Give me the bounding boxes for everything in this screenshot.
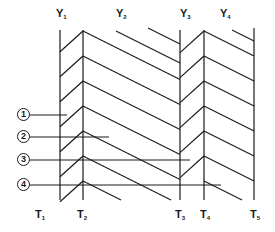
bottom-label-t5: T5 (250, 209, 260, 221)
rising-segment (60, 131, 83, 152)
rising-segment (60, 181, 83, 202)
falling-diagonal (83, 181, 121, 200)
label-letter: T (200, 208, 207, 220)
label-subscript: 4 (207, 215, 210, 221)
rising-segment (60, 31, 83, 52)
rising-segment (60, 106, 83, 127)
label-letter: T (77, 208, 84, 220)
label-subscript: 4 (227, 14, 230, 20)
rising-segment-right (180, 31, 204, 53)
top-label-y2: Y2 (116, 8, 127, 20)
label-letter: T (250, 208, 257, 220)
falling-diagonal-right (204, 106, 254, 131)
rising-segment-right (180, 156, 204, 178)
rising-segment-right (180, 81, 204, 103)
label-subscript: 2 (84, 215, 87, 221)
falling-diagonal-top (116, 31, 180, 63)
rising-segment-right (180, 56, 204, 78)
rising-segment (60, 81, 83, 102)
label-subscript: 3 (182, 215, 185, 221)
marker-lines (28, 115, 221, 185)
falling-diagonal-right (204, 131, 254, 156)
circled-marker-1: 1 (17, 108, 30, 121)
bottom-label-t3: T3 (175, 209, 185, 221)
falling-diagonal (83, 131, 180, 180)
bottom-label-t2: T2 (77, 209, 87, 221)
rising-segment (60, 56, 83, 77)
bottom-label-t1: T1 (35, 209, 45, 221)
falling-diagonal (83, 106, 180, 155)
time-axis-verticals (60, 28, 254, 200)
falling-diagonal (83, 81, 180, 130)
circled-marker-4: 4 (17, 178, 30, 191)
label-letter: T (175, 208, 182, 220)
rising-segment-right (180, 106, 204, 128)
label-subscript: 5 (257, 215, 260, 221)
top-label-y3: Y3 (180, 8, 191, 20)
rising-segment (60, 156, 83, 177)
chevron-diagonals (60, 28, 254, 202)
falling-diagonal-top-right (232, 30, 254, 41)
label-subscript: 1 (42, 215, 45, 221)
falling-diagonal (83, 56, 180, 105)
bottom-label-t4: T4 (200, 209, 210, 221)
rising-segment-right (180, 131, 204, 153)
herringbone-diagram (0, 0, 275, 232)
label-subscript: 1 (63, 14, 66, 20)
top-label-y1: Y1 (56, 8, 67, 20)
falling-diagonal-right (204, 81, 254, 106)
falling-diagonal-right (204, 56, 254, 81)
falling-diagonal-right (204, 156, 254, 181)
falling-diagonal-top (148, 28, 180, 44)
label-subscript: 3 (187, 14, 190, 20)
circled-marker-2: 2 (17, 130, 30, 143)
label-letter: T (35, 208, 42, 220)
top-label-y4: Y4 (220, 8, 231, 20)
falling-diagonal-right (204, 181, 242, 200)
label-subscript: 2 (123, 14, 126, 20)
falling-diagonal (83, 156, 171, 200)
falling-diagonal-right (204, 31, 254, 56)
circled-marker-3: 3 (17, 153, 30, 166)
